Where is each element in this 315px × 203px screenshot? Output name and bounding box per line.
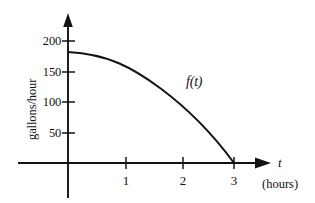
curve-label: f(t) [186, 75, 202, 89]
y-axis-title: gallons/hour [26, 79, 39, 140]
y-tick-label-200: 200 [33, 35, 61, 48]
x-axis-variable-label: t [278, 156, 282, 169]
y-tick-label-150: 150 [33, 66, 61, 79]
y-axis-arrowhead [63, 13, 73, 27]
x-tick-label-2: 2 [175, 174, 191, 187]
function-curve [68, 52, 234, 163]
x-tick-label-1: 1 [118, 174, 134, 187]
x-tick-label-3: 3 [226, 174, 242, 187]
rate-of-flow-figure: 200 150 100 50 1 2 3 gallons/hour t (hou… [0, 0, 315, 203]
x-axis-arrowhead [255, 158, 271, 169]
x-axis-units-label: (hours) [262, 178, 298, 191]
